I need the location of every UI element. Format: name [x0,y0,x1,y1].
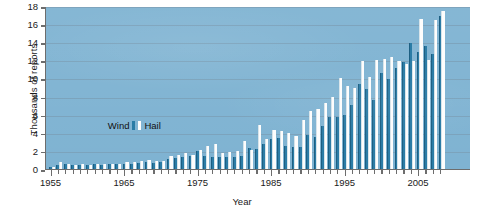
bar-hail-1996 [353,88,356,169]
bar-hail-2008 [441,11,444,169]
bar-hail-1988 [294,136,297,169]
x-axis-tick-label: 1955 [40,177,61,188]
x-axis-tick [102,170,103,174]
x-axis-tick [256,170,257,174]
bar-hail-2005 [419,19,422,169]
x-axis-tick [300,170,301,174]
bar-hail-1967 [140,161,143,169]
bar-hail-1981 [243,141,246,169]
x-axis-tick [51,170,52,176]
bar-hail-1973 [184,153,187,169]
x-axis-tick [220,170,221,174]
bar-hail-1984 [265,139,268,169]
bar-hail-1977 [214,144,217,169]
bar-hail-2002 [397,61,400,169]
x-axis-tick [80,170,81,174]
x-axis-tick-label: 1985 [260,177,281,188]
y-axis-tick-label: 10 [16,74,38,84]
bar-hail-1993 [331,97,334,169]
x-axis-tick [242,170,243,174]
x-axis-tick [175,170,176,174]
legend-swatch-hail [138,121,141,130]
x-axis-tick [367,170,368,174]
bar-hail-1995 [346,86,349,169]
x-axis-tick [198,170,199,176]
x-axis-tick [293,170,294,174]
bar-hail-1998 [368,77,371,169]
gridline [46,43,470,44]
x-axis-tick [278,170,279,174]
chart-legend: Wind Hail [108,120,161,131]
x-axis-tick [433,170,434,174]
x-axis-tick [308,170,309,174]
bar-hail-1956 [59,162,62,169]
bar-hail-1992 [324,103,327,169]
x-axis-tick [381,170,382,174]
x-axis-tick-label: 1995 [334,177,355,188]
x-axis-tick [234,170,235,174]
bar-hail-1985 [272,130,275,169]
x-axis-tick [58,170,59,174]
x-axis-tick [352,170,353,174]
bar-hail-1982 [250,150,253,169]
x-axis-tick [168,170,169,174]
y-axis-tick [41,170,45,172]
bar-hail-1978 [221,153,224,169]
x-axis-tick [183,170,184,174]
y-axis-tick-label: 14 [16,38,38,48]
y-axis-tick-label: 8 [16,93,38,103]
bar-hail-1958 [74,165,77,169]
bar-hail-1999 [375,60,378,169]
bar-hail-1955 [52,167,55,169]
x-axis-tick [425,170,426,174]
legend-label-hail: Hail [144,120,160,131]
x-axis-tick [374,170,375,174]
bar-hail-1976 [206,146,209,169]
bar-hail-1957 [67,164,70,169]
bar-hail-1994 [339,78,342,169]
x-axis-tick [139,170,140,174]
x-axis-title: Year [0,196,484,207]
bar-hail-1963 [111,164,114,169]
bar-hail-1986 [280,131,283,169]
x-axis-tick [131,170,132,174]
x-axis-tick [212,170,213,174]
x-axis-tick [440,170,441,174]
x-axis-tick [396,170,397,174]
bar-hail-1974 [191,155,194,169]
bar-hail-1972 [177,155,180,169]
x-axis-tick [95,170,96,174]
x-axis-tick [264,170,265,174]
x-axis-tick [330,170,331,174]
bar-hail-1989 [302,120,305,169]
bar-hail-2003 [405,64,408,169]
y-axis-tick-label: 16 [16,20,38,30]
legend-swatch-wind [132,121,135,130]
bar-hail-1975 [199,150,202,169]
bar-hail-1962 [103,164,106,169]
x-axis-tick [161,170,162,174]
plot-area: Wind Hail [45,7,470,170]
x-axis-tick [403,170,404,174]
x-axis-tick [337,170,338,174]
gridline [46,61,470,62]
bar-hail-1990 [309,111,312,169]
x-axis-tick [227,170,228,174]
bar-hail-2007 [434,20,437,169]
x-axis-tick [153,170,154,174]
bar-hail-1964 [118,164,121,169]
x-axis-tick [249,170,250,174]
bar-hail-1961 [96,164,99,169]
x-axis-tick [124,170,125,176]
x-axis-tick [87,170,88,174]
gridline [46,25,470,26]
bar-hail-2001 [390,57,393,169]
x-axis-tick [345,170,346,176]
y-axis-tick-label: 2 [16,147,38,157]
bar-hail-1987 [287,133,290,169]
bar-hail-1966 [133,162,136,169]
x-axis-tick-label: 1975 [187,177,208,188]
x-axis-tick [418,170,419,176]
bar-hail-2004 [412,61,415,169]
y-axis-tick-label: 6 [16,111,38,121]
